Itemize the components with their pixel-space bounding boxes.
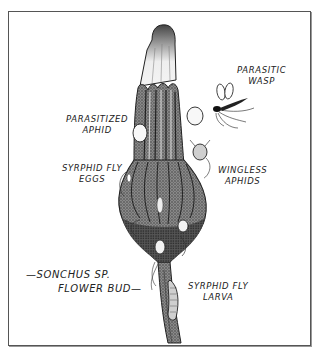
parasitic-wasp-figure xyxy=(213,82,254,128)
flower-tip xyxy=(140,25,176,86)
sonchus-bud-illustration xyxy=(0,0,316,352)
label-wingless-aphids: WINGLESS APHIDS xyxy=(218,165,267,187)
label-parasitized-aphid: PARASITIZED APHID xyxy=(66,114,128,136)
label-syrphid-fly-larva: SYRPHID FLY LARVA xyxy=(188,281,248,303)
syrphid-larva-figure xyxy=(168,280,178,320)
label-parasitic-wasp: PARASITIC WASP xyxy=(237,65,286,87)
label-sonchus-flower-bud: —SONCHUS SP. FLOWER BUD— xyxy=(26,268,142,296)
aphid-legs xyxy=(151,262,158,290)
label-syrphid-fly-eggs: SYRPHID FLY EGGS xyxy=(62,163,122,185)
